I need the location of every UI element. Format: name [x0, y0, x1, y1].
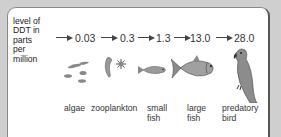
large-fish-icon: [171, 55, 217, 82]
organism-label-large-fish: large fish: [187, 104, 206, 123]
label-line: fish: [187, 114, 206, 124]
label-line: bird: [222, 114, 258, 124]
label-line: zooplankton: [91, 104, 137, 114]
arrow-icon: [138, 37, 153, 38]
organism-label-zooplankton: zooplankton: [91, 104, 137, 114]
arrow-icon: [174, 37, 189, 38]
organism-label-algae: algae: [64, 104, 85, 114]
zooplankton-icon: [101, 55, 131, 81]
ddt-level-small-fish: 1.3: [156, 32, 171, 44]
arrow-icon: [216, 37, 231, 38]
arrow-icon: [101, 37, 116, 38]
ddt-level-predatory-bird: 28.0: [234, 32, 254, 44]
y-label-line: million: [13, 55, 53, 64]
label-line: fish: [147, 114, 167, 124]
small-fish-icon: [138, 64, 168, 76]
ddt-level-large-fish: 13.0: [190, 32, 210, 44]
organism-label-predatory-bird: predatory bird: [222, 104, 258, 123]
algae-icon: [62, 60, 94, 85]
label-line: algae: [64, 104, 85, 114]
arrow-icon: [56, 37, 71, 38]
y-axis-label: level of DDT in parts per million: [13, 17, 53, 64]
organism-label-small-fish: small fish: [147, 104, 167, 123]
ddt-level-zooplankton: 0.3: [120, 32, 135, 44]
predatory-bird-icon: [230, 47, 258, 103]
ddt-level-algae: 0.03: [75, 32, 95, 44]
